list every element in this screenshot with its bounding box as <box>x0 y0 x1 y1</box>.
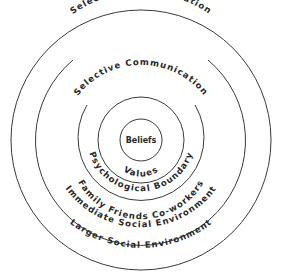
beliefs-label: Beliefs <box>126 136 157 145</box>
inner-selective-communication-label: Selective Communication <box>72 57 211 97</box>
values-label: Values <box>122 164 160 179</box>
concentric-communication-diagram: Selective Communication Selective Commun… <box>0 0 283 279</box>
outer-selective-communication-label: Selective Communication <box>68 0 214 16</box>
